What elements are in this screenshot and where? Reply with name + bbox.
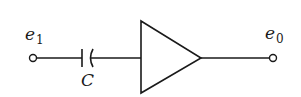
- output-label: e0: [265, 23, 284, 46]
- capacitor-label: C: [81, 70, 94, 90]
- circuit-diagram: e1 C e0: [0, 0, 301, 97]
- amplifier-triangle: [141, 21, 201, 93]
- output-terminal: [270, 55, 277, 62]
- input-terminal: [30, 55, 37, 62]
- input-label: e1: [25, 24, 44, 47]
